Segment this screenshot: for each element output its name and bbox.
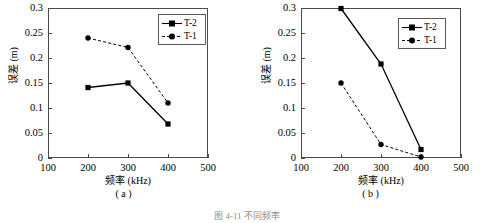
plot-area-b: 误差 (m) 00.050.10.150.20.250.3 1002003004…	[247, 0, 494, 180]
data-point-t-2	[378, 61, 383, 66]
figure-container: 误差 (m) 00.050.10.150.20.250.3 1002003004…	[0, 0, 494, 223]
legend-item-t2-a[interactable]: T-2	[162, 17, 201, 30]
panel-sublabel-b: ( b )	[247, 188, 494, 199]
x-axis-label-a: 频率 (kHz)	[48, 172, 208, 187]
legend-label-t2-a: T-2	[182, 19, 197, 29]
data-point-t-1	[418, 154, 423, 159]
data-point-t-2	[85, 85, 90, 90]
legend-label-t2-b: T-2	[422, 23, 437, 33]
data-point-t-2	[418, 147, 423, 152]
data-point-t-2	[165, 121, 170, 126]
data-point-t-1	[378, 142, 383, 147]
data-point-t-2	[338, 6, 343, 11]
legend-b[interactable]: T-2 T-1	[398, 18, 446, 49]
figure-caption: 图 4-11 不同频率	[0, 209, 494, 223]
legend-key-dashed-circle-icon	[402, 35, 422, 46]
plot-area-a: 误差 (m) 00.050.10.150.20.250.3 1002003004…	[0, 0, 247, 180]
data-point-t-2	[125, 80, 130, 85]
panel-sublabel-a: ( a )	[0, 188, 247, 199]
legend-key-solid-square-icon	[162, 18, 182, 29]
chart-panel-a: 误差 (m) 00.050.10.150.20.250.3 1002003004…	[0, 0, 247, 210]
legend-label-t1-b: T-1	[422, 36, 437, 46]
data-point-t-1	[338, 80, 343, 85]
legend-item-t1-b[interactable]: T-1	[402, 34, 441, 47]
data-point-t-1	[85, 35, 90, 40]
x-axis-label-b: 频率 (kHz)	[301, 172, 461, 187]
data-point-t-1	[165, 100, 170, 105]
series-lines-b	[247, 0, 494, 180]
legend-a[interactable]: T-2 T-1	[158, 14, 206, 45]
legend-label-t1-a: T-1	[182, 32, 197, 42]
chart-panel-b: 误差 (m) 00.050.10.150.20.250.3 1002003004…	[247, 0, 494, 210]
legend-key-dashed-circle-icon	[162, 31, 182, 42]
series-line-t-2	[88, 83, 168, 124]
data-point-t-1	[125, 45, 130, 50]
legend-item-t1-a[interactable]: T-1	[162, 30, 201, 43]
series-lines-a	[0, 0, 247, 180]
legend-item-t2-b[interactable]: T-2	[402, 21, 441, 34]
legend-key-solid-square-icon	[402, 22, 422, 33]
